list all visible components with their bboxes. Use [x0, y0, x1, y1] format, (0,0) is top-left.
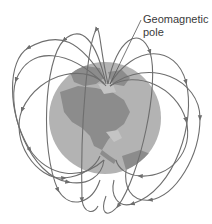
- geomagnetic-label-line-1: Geomagnetic: [143, 13, 208, 25]
- geomagnetic-label-line-2: pole: [143, 26, 164, 38]
- magnetic-field-diagram: [0, 0, 212, 224]
